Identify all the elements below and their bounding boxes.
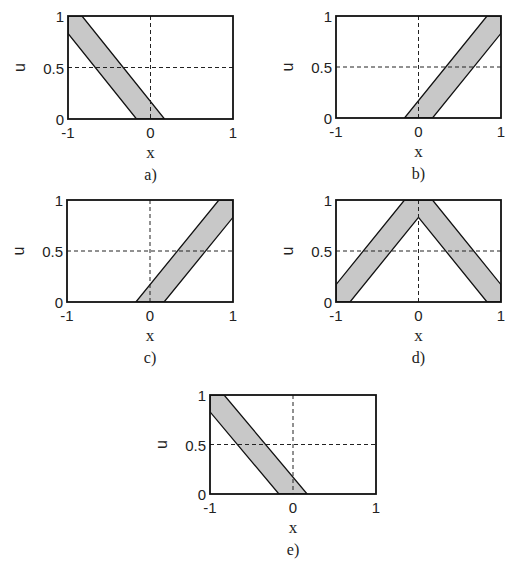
panel-caption: e) [287, 541, 299, 559]
y-tick-label: 0 [56, 111, 64, 128]
panel-a: -10100.51xua) [11, 8, 237, 184]
y-tick-label: 1 [324, 8, 332, 25]
x-tick-label: 1 [229, 307, 237, 324]
y-axis-label: u [10, 247, 27, 256]
y-tick-label: 0.5 [311, 243, 332, 260]
y-tick-label: 0 [324, 110, 332, 127]
panel-caption: b) [412, 165, 425, 183]
y-axis-label: u [11, 63, 28, 72]
x-tick-label: 1 [497, 307, 505, 324]
x-axis-label: x [414, 142, 423, 161]
y-tick-label: 0 [55, 294, 63, 311]
y-axis-label: u [153, 440, 170, 449]
x-tick-label: 0 [414, 307, 422, 324]
y-tick-label: 0.5 [185, 437, 206, 454]
panel-caption: c) [144, 349, 156, 367]
y-tick-label: 0 [198, 486, 206, 503]
y-tick-label: 0.5 [43, 60, 64, 77]
x-tick-label: 0 [289, 499, 297, 516]
x-tick-label: 0 [146, 124, 154, 141]
x-axis-label: x [289, 518, 298, 537]
y-axis-label: u [279, 247, 296, 256]
x-tick-label: 0 [146, 307, 154, 324]
y-tick-label: 1 [55, 192, 63, 209]
x-axis-label: x [146, 143, 155, 162]
y-tick-label: 1 [56, 8, 64, 25]
x-axis-label: x [146, 326, 155, 345]
x-axis-label: x [414, 326, 423, 345]
y-tick-label: 0.5 [311, 59, 332, 76]
x-tick-label: 0 [414, 123, 422, 140]
x-tick-label: 1 [497, 123, 505, 140]
panel-caption: a) [144, 166, 156, 184]
panel-b: -10100.51xub) [279, 8, 505, 183]
panel-e: -10100.51xue) [153, 387, 380, 559]
y-tick-label: 0 [324, 294, 332, 311]
y-tick-label: 1 [198, 387, 206, 404]
x-tick-label: 1 [372, 499, 380, 516]
y-tick-label: 0.5 [42, 243, 63, 260]
y-axis-label: u [279, 63, 296, 72]
panel-d: -10100.51xud) [279, 192, 505, 367]
panel-caption: d) [412, 349, 425, 367]
y-tick-label: 1 [324, 192, 332, 209]
x-tick-label: 1 [229, 124, 237, 141]
figure-svg: -10100.51xua)-10100.51xub)-10100.51xuc)-… [0, 0, 516, 579]
panel-c: -10100.51xuc) [10, 192, 237, 367]
